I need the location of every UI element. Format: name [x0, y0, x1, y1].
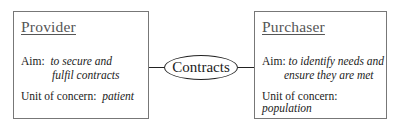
provider-unit-value: patient [102, 90, 134, 102]
purchaser-aim-label: Aim: [262, 55, 286, 67]
provider-aim-label: Aim: [21, 55, 45, 67]
provider-unit-label: Unit of concern: [21, 90, 96, 102]
contracts-ellipse: Contracts [164, 55, 238, 80]
contracts-label: Contracts [172, 59, 230, 76]
purchaser-aim: Aim: to identify needs and ensure they a… [262, 54, 384, 82]
connector-line-left [149, 67, 164, 68]
purchaser-aim-line2: ensure they are met [262, 68, 384, 82]
provider-title: Provider [21, 18, 76, 36]
provider-unit: Unit of concern: patient [21, 90, 134, 102]
purchaser-unit-value: population [262, 102, 312, 114]
purchaser-unit: Unit of concern: population [262, 90, 386, 114]
connector-line-right [238, 67, 254, 68]
purchaser-title: Purchaser [262, 18, 325, 36]
purchaser-box: Purchaser Aim: to identify needs and ens… [254, 11, 387, 119]
provider-aim-line2: fulfil contracts [21, 68, 119, 82]
purchaser-aim-line1: to identify needs and [289, 55, 385, 67]
purchaser-unit-label: Unit of concern: [262, 90, 337, 102]
provider-box: Provider Aim: to secure and fulfil contr… [13, 11, 149, 119]
provider-aim: Aim: to secure and fulfil contracts [21, 54, 119, 82]
provider-aim-line1: to secure and [50, 55, 112, 67]
